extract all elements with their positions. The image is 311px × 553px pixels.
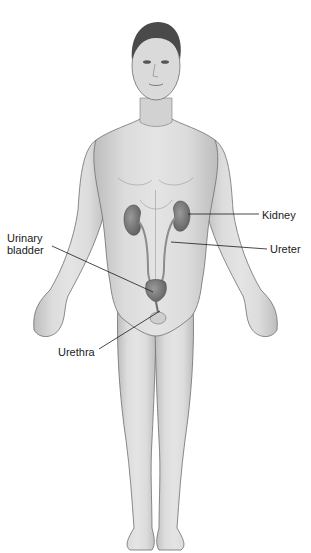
label-kidney: Kidney	[262, 209, 296, 221]
label-urinary-bladder-line1: Urinary	[7, 232, 44, 244]
neck	[140, 98, 172, 127]
label-urethra: Urethra	[58, 346, 95, 358]
legs	[117, 300, 193, 550]
label-urinary-bladder-line2: bladder	[7, 244, 44, 256]
label-ureter: Ureter	[270, 243, 301, 255]
body-illustration	[0, 0, 311, 553]
head	[132, 22, 181, 100]
label-urinary-bladder: Urinary bladder	[7, 232, 44, 256]
genitals	[150, 312, 166, 324]
